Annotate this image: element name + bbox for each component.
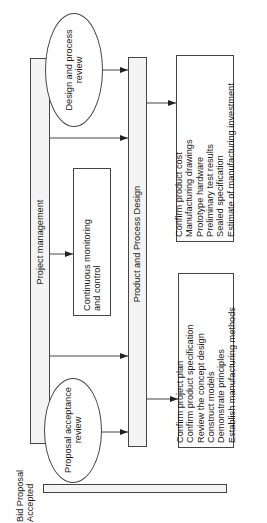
monitoring-label: Continuous monitoring and control (80, 173, 104, 311)
bid-proposal-label: Bid Proposal Accepted (14, 452, 36, 522)
early-deliverable-item: Review the concept design (196, 333, 206, 443)
monitoring-line2: and control (92, 266, 102, 311)
monitoring-line1: Continuous monitoring (82, 219, 92, 311)
early-deliverables-list: Confirm project plan Confirm product spe… (174, 277, 238, 443)
late-deliverable-item: Confirm product cost (174, 152, 184, 237)
bid-proposal-bar (43, 484, 227, 493)
product-process-design-text: Product and Process Design (132, 186, 142, 302)
early-deliverable-item: Construct models (206, 372, 216, 444)
project-management-label: Project management (33, 142, 47, 342)
early-deliverable-item: Confirm project plan (175, 361, 185, 443)
product-process-design-label: Product and Process Design (130, 144, 144, 344)
late-deliverables-list: Confirm product cost Manufacturing drawi… (173, 59, 237, 237)
late-deliverable-item: Preliminary test results (205, 144, 215, 237)
late-deliverable-item: Prototype hardware (195, 157, 205, 237)
design-review-line2: review (74, 57, 84, 84)
design-review-label: Design and process review (62, 15, 86, 125)
early-deliverable-item: Confirm product specification (185, 325, 195, 443)
proposal-review-label: Proposal acceptance review (61, 375, 85, 485)
design-review-line1: Design and process (64, 29, 74, 110)
late-deliverable-item: Manufacturing drawings (184, 139, 194, 237)
early-deliverable-item: Establish manufacturing methods (227, 307, 237, 443)
proposal-review-line1: Proposal acceptance (63, 387, 73, 473)
project-management-text: Project management (35, 200, 45, 285)
bid-proposal-label-line1: Bid Proposal (15, 470, 25, 522)
late-deliverable-item: Sealed specification (215, 155, 225, 237)
proposal-review-line2: review (73, 417, 83, 444)
late-deliverable-item: Estimate of manufacturing investment (226, 83, 236, 237)
bid-proposal-label-line2: Accepted (25, 484, 35, 522)
early-deliverable-item: Demonstrate principles (216, 349, 226, 443)
